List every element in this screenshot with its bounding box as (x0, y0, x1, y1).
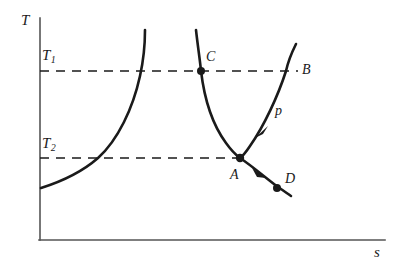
point-label-C: C (206, 50, 215, 64)
diagram-canvas (0, 0, 408, 264)
curve-A-to-D (240, 158, 291, 196)
point-markers-group (197, 67, 281, 192)
isotherm-label-T1: T1 (42, 48, 55, 63)
isotherm-label-T2-base: T (42, 135, 50, 151)
isotherm-label-T2-subscript: 2 (51, 142, 56, 153)
right-curve-B-to-A (240, 44, 296, 158)
y-axis-label: T (21, 13, 29, 28)
point-marker-C (197, 67, 205, 75)
point-label-A: A (230, 168, 239, 182)
middle-curve-C-to-A (196, 30, 240, 158)
isotherm-label-T1-base: T (42, 47, 50, 63)
point-marker-A (236, 154, 244, 162)
point-label-D: D (285, 172, 295, 186)
ts-diagram-figure: T s T1 T2 C A D B p (0, 0, 408, 264)
isotherm-lines-group (40, 71, 298, 158)
arrows-group (252, 126, 268, 178)
x-axis-label: s (374, 245, 380, 260)
isotherm-label-T2: T2 (42, 136, 55, 151)
curve-label-p: p (275, 104, 282, 118)
point-label-B: B (302, 63, 311, 77)
isotherm-label-T1-subscript: 1 (51, 54, 56, 65)
point-marker-D (273, 184, 281, 192)
left-saturation-curve (41, 30, 145, 188)
curves-group (41, 30, 296, 196)
